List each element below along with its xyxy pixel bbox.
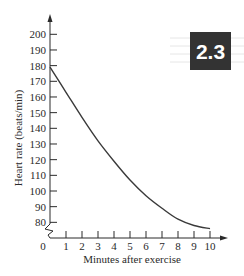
y-tick-label: 100 bbox=[30, 185, 47, 197]
x-tick-label: 9 bbox=[191, 240, 197, 252]
y-tick-label: 170 bbox=[30, 75, 47, 87]
axis-break-icon bbox=[45, 224, 53, 238]
x-axis-title: Minutes after exercise bbox=[83, 253, 181, 265]
x-tick-group: 012345678910 bbox=[40, 231, 216, 252]
y-tick-label: 160 bbox=[30, 91, 47, 103]
y-axis-arrow-icon bbox=[48, 14, 53, 22]
section-badge: 2.3 bbox=[170, 32, 244, 70]
y-tick-label: 80 bbox=[35, 216, 47, 228]
y-tick-label: 120 bbox=[30, 154, 47, 166]
y-tick-label: 190 bbox=[30, 44, 47, 56]
y-tick-label: 180 bbox=[30, 60, 47, 72]
x-tick-label: 2 bbox=[79, 240, 85, 252]
heart-rate-curve bbox=[50, 67, 210, 228]
section-number: 2.3 bbox=[196, 40, 225, 63]
y-tick-label: 130 bbox=[30, 138, 47, 150]
x-axis-arrow-icon bbox=[220, 236, 228, 241]
y-tick-label: 150 bbox=[30, 107, 47, 119]
x-tick-label: 0 bbox=[40, 240, 46, 252]
y-axis-title: Heart rate (beats/min) bbox=[12, 89, 25, 186]
heart-rate-chart: 2.3 809010011012013014015016017018019020… bbox=[0, 0, 244, 276]
x-tick-label: 1 bbox=[63, 240, 69, 252]
x-tick-label: 5 bbox=[127, 240, 133, 252]
x-tick-label: 3 bbox=[95, 240, 101, 252]
y-tick-label: 140 bbox=[30, 122, 47, 134]
y-tick-group: 8090100110120130140150160170180190200 bbox=[30, 28, 58, 228]
x-axis bbox=[50, 236, 228, 241]
x-tick-label: 8 bbox=[175, 240, 181, 252]
x-tick-label: 10 bbox=[205, 240, 217, 252]
x-tick-label: 6 bbox=[143, 240, 149, 252]
x-tick-label: 7 bbox=[159, 240, 165, 252]
y-tick-label: 200 bbox=[30, 28, 47, 40]
x-tick-label: 4 bbox=[111, 240, 117, 252]
y-axis bbox=[45, 14, 53, 238]
y-tick-label: 110 bbox=[30, 169, 47, 181]
y-tick-label: 90 bbox=[35, 201, 47, 213]
